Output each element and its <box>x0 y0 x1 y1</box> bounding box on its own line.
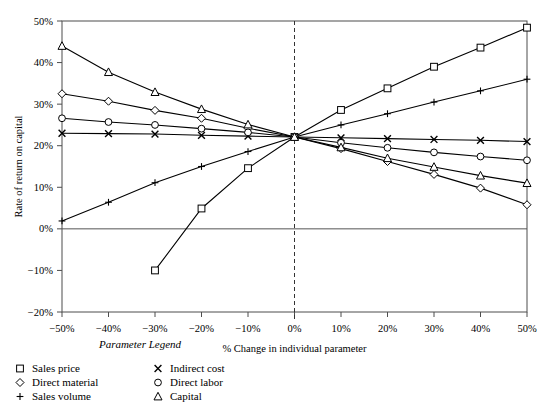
data-point-1-2 <box>151 106 159 114</box>
data-point-2-9 <box>477 87 484 94</box>
y-axis-title: Rate of return on capital <box>13 115 24 217</box>
y-tick-label-50: 50% <box>34 16 54 27</box>
legend-layer: Parameter LegendSales priceDirect materi… <box>16 338 225 402</box>
y-tick-label-30: 30% <box>34 99 54 110</box>
x-tick-label--10: −10% <box>235 323 260 334</box>
data-point-4-7 <box>384 144 391 151</box>
data-point-4-0 <box>59 115 66 122</box>
x-tick-label-10: 10% <box>331 323 351 334</box>
legend-label-1: Direct material <box>32 376 98 388</box>
y-tick-label--10: −10% <box>28 265 53 276</box>
data-point-2-6 <box>338 122 345 129</box>
legend-marker-x-icon <box>155 365 162 372</box>
data-point-1-0 <box>58 90 66 98</box>
data-point-0-5 <box>384 85 391 92</box>
legend-item-sales-price[interactable]: Sales price <box>17 362 80 374</box>
data-point-0-4 <box>338 107 345 114</box>
data-point-5-0 <box>58 42 66 50</box>
data-point-4-2 <box>152 122 159 129</box>
data-point-2-0 <box>59 218 66 225</box>
sensitivity-line-chart: −20%−10%0%10%20%30%40%50%−50%−40%−30%−20… <box>0 0 553 410</box>
legend-item-indirect-cost[interactable]: Indirect cost <box>155 362 225 374</box>
legend-label-4: Direct labor <box>170 376 223 388</box>
data-point-4-8 <box>431 149 438 156</box>
x-tick-label-0: 0% <box>288 323 302 334</box>
data-point-4-1 <box>105 119 112 126</box>
x-tick-label-40: 40% <box>471 323 491 334</box>
legend-marker-diamond-icon <box>16 379 24 387</box>
legend-label-3: Indirect cost <box>170 362 225 374</box>
data-point-0-1 <box>198 205 205 212</box>
data-point-2-7 <box>384 110 391 117</box>
data-point-2-8 <box>431 99 438 106</box>
x-tick-label-20: 20% <box>378 323 398 334</box>
legend-label-5: Capital <box>170 390 202 402</box>
x-tick-label-30: 30% <box>424 323 444 334</box>
legend-item-capital[interactable]: Capital <box>154 390 202 402</box>
legend-item-sales-volume[interactable]: Sales volume <box>17 390 91 402</box>
x-axis-title: % Change in individual parameter <box>222 343 367 354</box>
data-point-4-10 <box>524 157 531 164</box>
data-point-0-2 <box>245 165 252 172</box>
legend-marker-circle-icon <box>155 379 162 386</box>
data-point-2-4 <box>245 148 252 155</box>
data-point-4-3 <box>198 125 205 132</box>
data-point-2-3 <box>198 163 205 170</box>
data-point-0-8 <box>524 24 531 31</box>
legend-item-direct-labor[interactable]: Direct labor <box>155 376 224 388</box>
data-point-0-6 <box>431 63 438 70</box>
data-point-1-10 <box>523 201 531 209</box>
y-tick-label-0: 0% <box>39 223 53 234</box>
x-tick-label--40: −40% <box>96 323 121 334</box>
chart-root: −20%−10%0%10%20%30%40%50%−50%−40%−30%−20… <box>0 0 553 410</box>
legend-title: Parameter Legend <box>98 338 182 350</box>
labels-layer: −20%−10%0%10%20%30%40%50%−50%−40%−30%−20… <box>13 16 537 354</box>
data-point-4-9 <box>477 153 484 160</box>
legend-item-direct-material[interactable]: Direct material <box>16 376 98 388</box>
y-tick-label--20: −20% <box>28 307 53 318</box>
data-point-4-4 <box>245 129 252 136</box>
data-point-5-3 <box>198 105 206 113</box>
data-point-0-0 <box>152 267 159 274</box>
legend-marker-triangle-icon <box>154 392 162 400</box>
axes-layer <box>57 21 527 319</box>
y-tick-label-10: 10% <box>34 182 54 193</box>
data-point-5-1 <box>105 68 113 76</box>
y-tick-label-40: 40% <box>34 57 54 68</box>
legend-label-2: Sales volume <box>32 390 91 402</box>
y-tick-label-20: 20% <box>34 140 54 151</box>
data-point-1-3 <box>198 114 206 122</box>
legend-label-0: Sales price <box>32 362 80 374</box>
x-tick-label--30: −30% <box>142 323 167 334</box>
data-point-0-7 <box>477 44 484 51</box>
data-point-5-2 <box>151 88 159 96</box>
data-point-1-9 <box>477 184 485 192</box>
data-point-2-10 <box>524 76 531 83</box>
data-point-2-1 <box>105 199 112 206</box>
data-point-2-2 <box>152 179 159 186</box>
data-point-1-8 <box>430 170 438 178</box>
legend-marker-plus-icon <box>17 393 24 400</box>
x-tick-label--50: −50% <box>49 323 74 334</box>
x-tick-label-50: 50% <box>517 323 537 334</box>
data-point-1-1 <box>105 97 113 105</box>
x-tick-label--20: −20% <box>189 323 214 334</box>
legend-marker-square-icon <box>17 365 24 372</box>
